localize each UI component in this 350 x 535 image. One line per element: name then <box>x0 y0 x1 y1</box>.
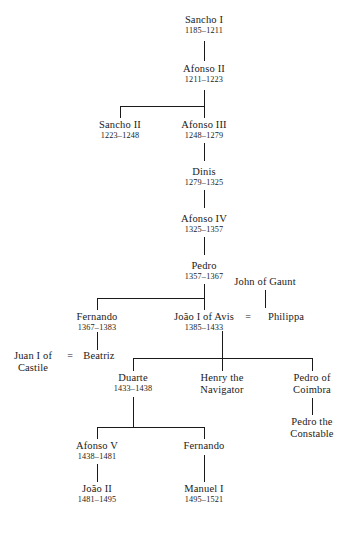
marriage-symbol-juan-beatriz: = <box>67 350 73 361</box>
connector-to-pedrocoimbra <box>312 358 313 371</box>
node-name: Fernando <box>184 440 225 452</box>
node-name: Sancho II <box>99 119 141 131</box>
node-philippa: Philippa <box>268 311 304 323</box>
node-name: Duarte <box>114 372 153 384</box>
node-dates: 1185–1211 <box>185 26 223 35</box>
node-name-line1: Pedro of <box>293 372 331 384</box>
node-dates: 1438–1481 <box>76 452 118 461</box>
connector-to-sancho2 <box>120 106 121 118</box>
node-dates: 1279–1325 <box>185 178 224 187</box>
connector-to-duarte <box>133 358 134 371</box>
node-name-line2: Coimbra <box>293 384 331 396</box>
genealogy-chart: Sancho I 1185–1211 Afonso II 1211–1223 S… <box>0 0 350 535</box>
connector-pedrocoimbra-pedroconst <box>312 398 313 415</box>
node-name: Manuel I <box>184 483 223 495</box>
connector-to-henry <box>222 358 223 371</box>
node-dates: 1325–1357 <box>181 225 227 234</box>
node-dates: 1367–1383 <box>77 323 118 332</box>
node-dates: 1357–1367 <box>185 272 224 281</box>
connector-afonso4-pedro <box>204 237 205 255</box>
connector-joao-philippa-stem <box>222 331 223 358</box>
connector-dinis-afonso4 <box>204 190 205 208</box>
node-name: Beatriz <box>83 350 114 362</box>
connector-sancho1-afonso2 <box>204 41 205 61</box>
node-dates: 1481–1495 <box>78 495 117 504</box>
node-name: Pedro <box>185 260 224 272</box>
node-name: Afonso IV <box>181 213 227 225</box>
node-name: João I of Avis <box>174 311 234 323</box>
connector-afonso2-stem <box>204 90 205 106</box>
node-name: Sancho I <box>185 14 223 26</box>
node-name-line1: Henry the <box>200 372 243 384</box>
node-henry-the-navigator: Henry the Navigator <box>200 372 243 396</box>
node-sancho2: Sancho II 1223–1248 <box>99 119 141 140</box>
connector-duarte-bus <box>97 427 205 428</box>
connector-afonso5-joao2 <box>97 464 98 482</box>
connector-johngaunt-philippa <box>265 290 266 308</box>
node-pedro: Pedro 1357–1367 <box>185 260 224 281</box>
node-duarte: Duarte 1433–1438 <box>114 372 153 393</box>
connector-fernando2-manuel1 <box>204 455 205 482</box>
node-name: John of Gaunt <box>234 276 295 288</box>
connector-avis-bus <box>133 358 313 359</box>
node-name: Afonso II <box>183 63 225 75</box>
node-name-line1: Pedro the <box>290 416 333 428</box>
node-sancho1: Sancho I 1185–1211 <box>185 14 223 35</box>
connector-to-afonso5 <box>97 427 98 439</box>
connector-afonso2-bus <box>120 106 205 107</box>
connector-to-joao1 <box>204 298 205 310</box>
node-dinis: Dinis 1279–1325 <box>185 166 224 187</box>
connector-to-afonso3 <box>204 106 205 118</box>
node-dates: 1211–1223 <box>183 75 225 84</box>
node-pedro-of-coimbra: Pedro of Coimbra <box>293 372 331 396</box>
connector-to-fernando2 <box>204 427 205 439</box>
connector-afonso3-dinis <box>204 143 205 161</box>
node-name: Fernando <box>77 311 118 323</box>
node-dates: 1495–1521 <box>184 495 223 504</box>
connector-pedro-bus <box>97 298 205 299</box>
node-name: Dinis <box>185 166 224 178</box>
connector-duarte-drop <box>133 412 134 427</box>
node-dates: 1433–1438 <box>114 384 153 393</box>
node-juan1-castile: Juan I of Castile <box>14 350 52 374</box>
node-afonso4: Afonso IV 1325–1357 <box>181 213 227 234</box>
connector-to-fernando1 <box>97 298 98 310</box>
node-john-of-gaunt: John of Gaunt <box>234 276 295 288</box>
connector-pedro-stem <box>204 284 205 298</box>
connector-fernando1-beatriz <box>97 332 98 350</box>
node-joao2: João II 1481–1495 <box>78 483 117 504</box>
node-joao1-avis: João I of Avis 1385–1433 <box>174 311 234 332</box>
node-fernando-duarte-son: Fernando <box>184 440 225 452</box>
node-fernando-1367: Fernando 1367–1383 <box>77 311 118 332</box>
node-afonso3: Afonso III 1248–1279 <box>181 119 227 140</box>
node-pedro-the-constable: Pedro the Constable <box>290 416 333 440</box>
node-name-line2: Navigator <box>200 384 243 396</box>
node-name: João II <box>78 483 117 495</box>
node-name-line2: Constable <box>290 428 333 440</box>
node-manuel1: Manuel I 1495–1521 <box>184 483 223 504</box>
node-name: Afonso III <box>181 119 227 131</box>
node-beatriz: Beatriz <box>83 350 114 362</box>
node-name-line2: Castile <box>14 362 52 374</box>
node-name: Afonso V <box>76 440 118 452</box>
node-name: Philippa <box>268 311 304 323</box>
node-afonso5: Afonso V 1438–1481 <box>76 440 118 461</box>
node-afonso2: Afonso II 1211–1223 <box>183 63 225 84</box>
marriage-symbol-joao-philippa: = <box>245 311 251 322</box>
node-dates: 1248–1279 <box>181 131 227 140</box>
node-dates: 1385–1433 <box>174 323 234 332</box>
connector-duarte-stem <box>133 397 134 412</box>
node-name-line1: Juan I of <box>14 350 52 362</box>
node-dates: 1223–1248 <box>99 131 141 140</box>
